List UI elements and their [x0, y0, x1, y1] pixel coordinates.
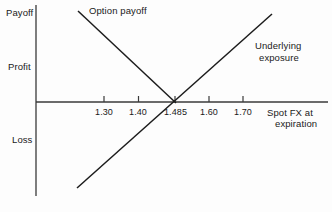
x-tick-label-1485: 1.485 — [159, 107, 192, 118]
annotation-underlying-line1: Underlying — [255, 40, 301, 51]
x-tick-label-140: 1.40 — [124, 107, 152, 118]
y-axis-label-payoff: Payoff — [6, 7, 33, 18]
x-tick-label-170: 1.70 — [229, 107, 257, 118]
annotation-underlying-line2: exposure — [259, 52, 299, 63]
chart-canvas — [0, 0, 332, 212]
y-axis-label-profit: Profit — [8, 61, 31, 72]
payoff-diagram: Payoff Profit Loss 1.30 1.40 1.485 1.60 … — [0, 0, 332, 212]
x-axis-title-line1: Spot FX at — [267, 107, 313, 118]
x-tick-label-160: 1.60 — [195, 107, 223, 118]
y-axis-label-loss: Loss — [12, 134, 32, 145]
x-tick-label-130: 1.30 — [90, 107, 118, 118]
x-axis-title-line2: expiration — [275, 118, 317, 129]
option-payoff-line — [78, 11, 176, 103]
annotation-option-payoff: Option payoff — [89, 5, 147, 16]
